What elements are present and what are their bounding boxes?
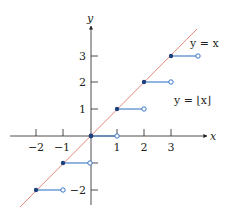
floor-function-label: y = ⌊x⌋ [173, 94, 211, 107]
x-ticks [36, 129, 171, 136]
y-ticks [91, 56, 98, 190]
y-tick-label: 1 [79, 103, 86, 116]
identity-line-label: y = x [189, 37, 219, 50]
open-endpoints [61, 54, 200, 192]
x-tick-label: 3 [168, 141, 175, 154]
floor-steps [36, 56, 196, 190]
y-tick-label: 3 [79, 50, 86, 63]
x-tick-label: −2 [28, 141, 44, 154]
x-axis-label: x [210, 130, 217, 143]
y-axis-label: y [86, 12, 94, 25]
y-tick-label: 2 [79, 76, 86, 89]
x-tick-label: 1 [114, 141, 121, 154]
y-tick-label: −2 [70, 184, 86, 197]
floor-function-chart: −2 −1 1 2 3 3 2 1 −2 x y y = x y = ⌊x⌋ [0, 0, 231, 213]
x-tick-label: −1 [54, 141, 70, 154]
x-tick-label: 2 [141, 141, 148, 154]
